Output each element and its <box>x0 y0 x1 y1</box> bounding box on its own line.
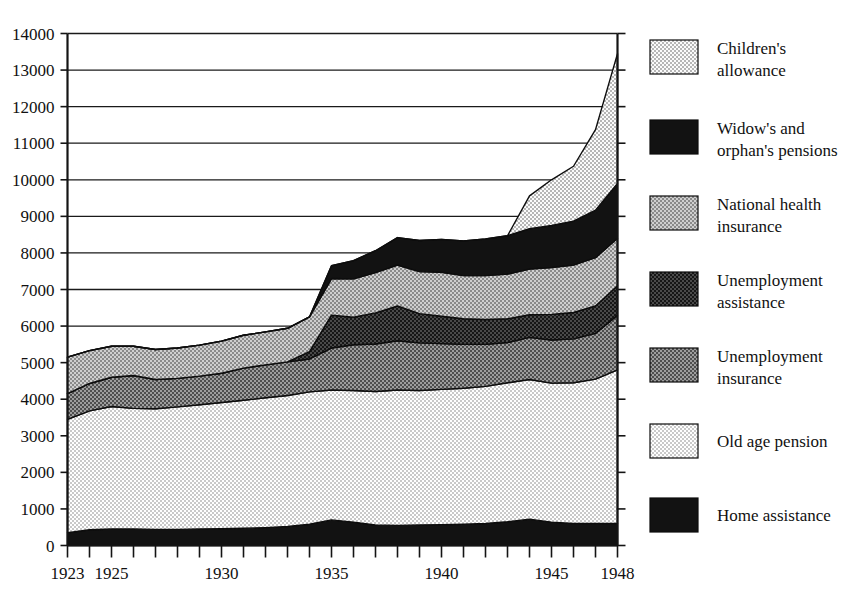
legend-label-line2: assistance <box>717 293 785 312</box>
legend-label-line2: insurance <box>717 217 782 236</box>
legend-label: National health <box>717 195 822 214</box>
y-axis-label: 12000 <box>12 98 55 117</box>
x-axis-label: 1945 <box>535 564 569 583</box>
y-axis-label: 1000 <box>21 500 55 519</box>
legend-label: Children's <box>717 39 786 58</box>
y-axis-label: 2000 <box>21 463 55 482</box>
legend-swatch <box>650 40 698 74</box>
x-axis-label: 1940 <box>425 564 459 583</box>
y-axis-label: 10000 <box>12 171 55 190</box>
x-axis-tick-labels: 1923192519301935194019451948 <box>51 564 635 583</box>
y-axis-tick-labels: 0100020003000400050006000700080009000100… <box>12 25 55 556</box>
legend-label: Widow's and <box>717 119 805 138</box>
y-axis-label: 0 <box>46 537 55 556</box>
legend-swatch <box>650 424 698 458</box>
x-axis-label: 1923 <box>51 564 85 583</box>
x-axis-label: 1930 <box>205 564 239 583</box>
chart-legend: Children'sallowanceWidow's andorphan's p… <box>650 39 838 532</box>
y-axis-label: 5000 <box>21 354 55 373</box>
x-axis-label: 1935 <box>315 564 349 583</box>
y-axis-label: 6000 <box>21 317 55 336</box>
legend-label: Home assistance <box>717 506 831 525</box>
y-axis-label: 8000 <box>21 244 55 263</box>
legend-swatch <box>650 348 698 382</box>
legend-label: Old age pension <box>717 432 828 451</box>
y-axis-label: 13000 <box>12 61 55 80</box>
y-axis-label: 3000 <box>21 427 55 446</box>
y-axis-label: 11000 <box>13 134 55 153</box>
x-axis-label: 1925 <box>95 564 129 583</box>
x-axis-label: 1948 <box>601 564 635 583</box>
y-axis-label: 7000 <box>21 281 55 300</box>
y-axis-label: 4000 <box>21 390 55 409</box>
legend-label-line2: insurance <box>717 369 782 388</box>
legend-swatch <box>650 498 698 532</box>
y-axis-label: 14000 <box>12 25 55 44</box>
chart-canvas: 0100020003000400050006000700080009000100… <box>0 0 852 612</box>
legend-label-line2: allowance <box>717 61 786 80</box>
stacked-area-chart-figure: 0100020003000400050006000700080009000100… <box>0 0 852 612</box>
legend-label: Unemployment <box>717 347 823 366</box>
x-axis-ticks <box>68 546 618 558</box>
legend-swatch <box>650 120 698 154</box>
y-axis-label: 9000 <box>21 207 55 226</box>
legend-label: Unemployment <box>717 271 823 290</box>
legend-swatch <box>650 196 698 230</box>
legend-label-line2: orphan's pensions <box>717 141 838 160</box>
stacked-area-bands <box>68 54 618 546</box>
legend-swatch <box>650 272 698 306</box>
